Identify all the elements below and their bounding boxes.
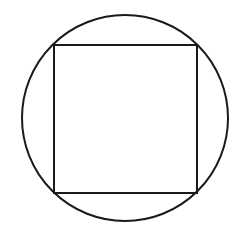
- inscribed-square: [54, 45, 197, 193]
- inscribed-square-diagram: [0, 0, 232, 236]
